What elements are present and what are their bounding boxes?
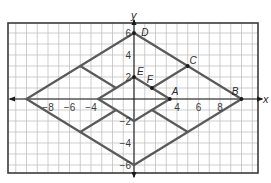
point-label-f: F — [147, 74, 154, 85]
x-tick-label: −8 — [42, 102, 54, 113]
point-label-d: D — [141, 27, 148, 38]
point-label-e: E — [137, 66, 144, 77]
x-axis-label: x — [262, 93, 269, 105]
y-tick-label: −4 — [120, 138, 132, 149]
y-axis-label: y — [130, 9, 138, 21]
grid — [8, 23, 258, 173]
plot-frame — [8, 23, 258, 173]
x-tick-label: −6 — [64, 102, 76, 113]
y-tick-label: −2 — [120, 116, 132, 127]
x-tick-label: 8 — [217, 102, 223, 113]
point-label-b: B — [232, 86, 239, 97]
coordinate-plane-figure: −8−6−4468642−2−4−6 DCEFAB x y — [0, 0, 271, 183]
x-tick-label: 6 — [196, 102, 202, 113]
y-tick-label: 6 — [125, 28, 131, 39]
point-label-c: C — [190, 55, 198, 66]
point-f — [150, 86, 154, 90]
y-tick-label: 2 — [125, 72, 131, 83]
point-e — [132, 75, 136, 79]
y-tick-label: −6 — [120, 160, 132, 171]
point-d — [132, 31, 136, 35]
point-b — [240, 97, 244, 101]
y-tick-label: 4 — [125, 50, 131, 61]
point-label-a: A — [171, 86, 179, 97]
point-a — [168, 97, 172, 101]
x-tick-label: 4 — [174, 102, 180, 113]
x-tick-label: −4 — [85, 102, 97, 113]
